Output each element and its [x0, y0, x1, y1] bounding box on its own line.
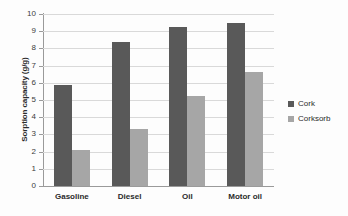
- y-axis-tick-label: 6: [14, 78, 36, 87]
- bar-cork-motor-oil[interactable]: [227, 23, 245, 186]
- bar-corksorb-gasoline[interactable]: [72, 150, 90, 186]
- bar-group: [169, 14, 205, 186]
- legend-swatch-icon: [288, 101, 294, 107]
- bar-corksorb-oil[interactable]: [187, 96, 205, 186]
- legend: CorkCorksorb: [288, 96, 330, 126]
- bar-chart: Sorption capacity (g/g) 109876543210 Gas…: [0, 0, 348, 216]
- bar-group: [112, 14, 148, 186]
- y-axis-tick-label: 0: [14, 181, 36, 190]
- legend-label: Cork: [298, 99, 315, 108]
- plot-area: [43, 14, 274, 186]
- y-axis-tick-label: 7: [14, 61, 36, 70]
- y-axis-tick-label: 8: [14, 43, 36, 52]
- legend-label: Corksorb: [298, 114, 330, 123]
- y-axis-tick-label: 3: [14, 129, 36, 138]
- bar-corksorb-motor-oil[interactable]: [245, 72, 263, 186]
- bar-cork-oil[interactable]: [169, 27, 187, 186]
- bar-group: [227, 14, 263, 186]
- y-axis-tick-label: 2: [14, 147, 36, 156]
- legend-entry-cork[interactable]: Cork: [288, 96, 330, 111]
- y-axis-tick-label: 5: [14, 95, 36, 104]
- y-axis-tick-label: 1: [14, 164, 36, 173]
- gridline: [43, 186, 274, 187]
- legend-swatch-icon: [288, 116, 294, 122]
- bar-cork-diesel[interactable]: [112, 42, 130, 186]
- bar-cork-gasoline[interactable]: [54, 85, 72, 186]
- y-axis-tick-label: 10: [14, 9, 36, 18]
- bar-group: [54, 14, 90, 186]
- y-axis-tick-label: 4: [14, 112, 36, 121]
- legend-entry-corksorb[interactable]: Corksorb: [288, 111, 330, 126]
- x-axis-label-motor-oil: Motor oil: [205, 192, 285, 201]
- bar-corksorb-diesel[interactable]: [130, 129, 148, 186]
- y-axis-tick-label: 9: [14, 26, 36, 35]
